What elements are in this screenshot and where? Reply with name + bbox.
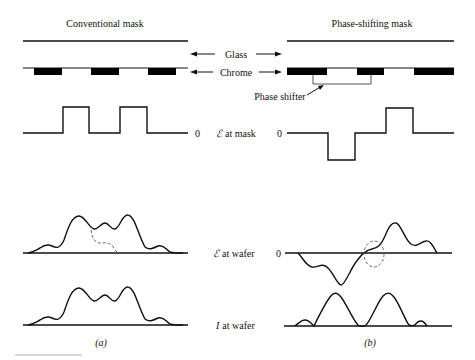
e-at-mask-label: ℰat mask	[216, 128, 256, 139]
phase-shifter-bracket	[313, 75, 371, 84]
chrome-label: Chrome	[220, 67, 253, 78]
phase-shift-mask-diagram: Conventional mask Phase-shifting mask Gl…	[0, 0, 475, 360]
conventional-i-at-wafer-curve	[28, 287, 183, 325]
phase-chrome-block	[357, 68, 384, 75]
glass-arrowhead-right-icon	[275, 52, 282, 57]
e-symbol: ℰ	[216, 128, 223, 139]
caption-a: (a)	[95, 337, 107, 349]
e-at-wafer-label: ℰat wafer	[213, 248, 255, 259]
conventional-e-at-wafer-dashed	[91, 230, 118, 253]
phase-i-at-wafer-curve	[295, 293, 427, 326]
conventional-chrome-block	[34, 68, 62, 75]
chrome-label-group: Chrome	[190, 67, 282, 78]
caption-b: (b)	[364, 337, 376, 349]
i-symbol: I	[215, 320, 220, 331]
i-at-wafer-label: Iat wafer	[215, 320, 255, 331]
conventional-chrome-block	[148, 68, 176, 75]
conventional-e-at-mask-waveform	[23, 107, 188, 133]
phase-shifting-mask-title: Phase-shifting mask	[332, 18, 413, 29]
phase-chrome-block	[414, 68, 454, 75]
phase-e-at-wafer-curve	[298, 223, 437, 285]
phase-shifter-label: Phase shifter	[254, 91, 306, 102]
phase-zero-crossing-highlight	[364, 241, 384, 267]
glass-label: Glass	[225, 49, 247, 60]
phase-wafer-zero-label: 0	[276, 248, 281, 259]
conventional-chrome-block	[91, 68, 119, 75]
phase-shifter-arrowhead-icon	[318, 85, 324, 90]
conventional-e-at-wafer-curve	[28, 215, 183, 253]
glass-label-group: Glass	[190, 49, 282, 60]
phase-e-at-mask-waveform	[287, 108, 454, 160]
glass-arrowhead-left-icon	[190, 52, 197, 57]
e-symbol: ℰ	[213, 248, 220, 259]
phase-chrome-block	[287, 68, 327, 75]
conventional-mask-title: Conventional mask	[66, 18, 144, 29]
phase-mask-zero-label: 0	[277, 128, 282, 139]
chrome-arrowhead-left-icon	[190, 70, 197, 75]
conventional-zero-label: 0	[195, 128, 200, 139]
chrome-arrowhead-right-icon	[275, 70, 282, 75]
